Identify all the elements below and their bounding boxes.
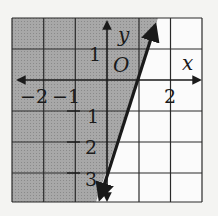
- x-tick-label-minus-1: −1: [52, 85, 80, 107]
- y-tick-label-minus-2: 2: [85, 136, 97, 158]
- x-tick-label-2: 2: [164, 85, 176, 107]
- y-tick-label-1: 1: [89, 43, 101, 65]
- y-axis-label: y: [117, 23, 130, 47]
- x-axis-label: x: [182, 51, 193, 75]
- inequality-graph: y x O 1 1 2 3 −2 −1 2: [0, 0, 218, 216]
- y-tick-label-minus-3: 3: [85, 168, 97, 190]
- origin-label: O: [113, 53, 129, 77]
- x-tick-label-minus-2: −2: [20, 85, 48, 107]
- y-tick-label-minus-1: 1: [87, 105, 99, 127]
